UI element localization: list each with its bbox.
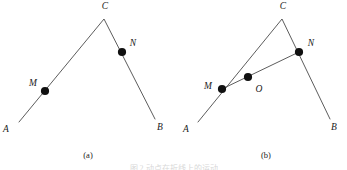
panel-b-broken-line-acb [198,19,330,122]
panel-b-label-b: B [331,122,337,132]
panel-a-point-n-dot [118,48,126,56]
panel-a-point-m-dot [41,87,49,95]
panel-b-point-o-dot [244,73,252,81]
panel-a-label-b: B [157,122,163,132]
panel-a-caption: (a) [83,150,93,160]
panel-b: A M O C N B (b) [182,1,337,160]
panel-b-label-a: A [182,124,189,134]
panel-b-caption: (b) [261,150,271,160]
figure-container: A M C N B (a) A M O C N B (b) 图 2 动点在折线上… [0,0,347,170]
panel-b-point-n-dot [295,48,303,56]
panel-a-label-a: A [2,124,9,134]
geometry-diagram-canvas: A M C N B (a) A M O C N B (b) [0,0,347,170]
panel-a-label-n: N [129,38,137,48]
panel-a: A M C N B (a) [2,1,163,160]
panel-b-label-c: C [280,1,287,11]
panel-b-point-m-dot [218,85,226,93]
panel-a-label-m: M [28,78,38,88]
panel-a-broken-line-acb [19,19,155,122]
panel-a-label-c: C [102,1,109,11]
panel-b-label-m: M [203,81,213,91]
figure-bottom-caption: 图 2 动点在折线上的运动 [0,164,347,170]
panel-b-label-n: N [307,38,315,48]
panel-b-label-o: O [256,84,263,94]
